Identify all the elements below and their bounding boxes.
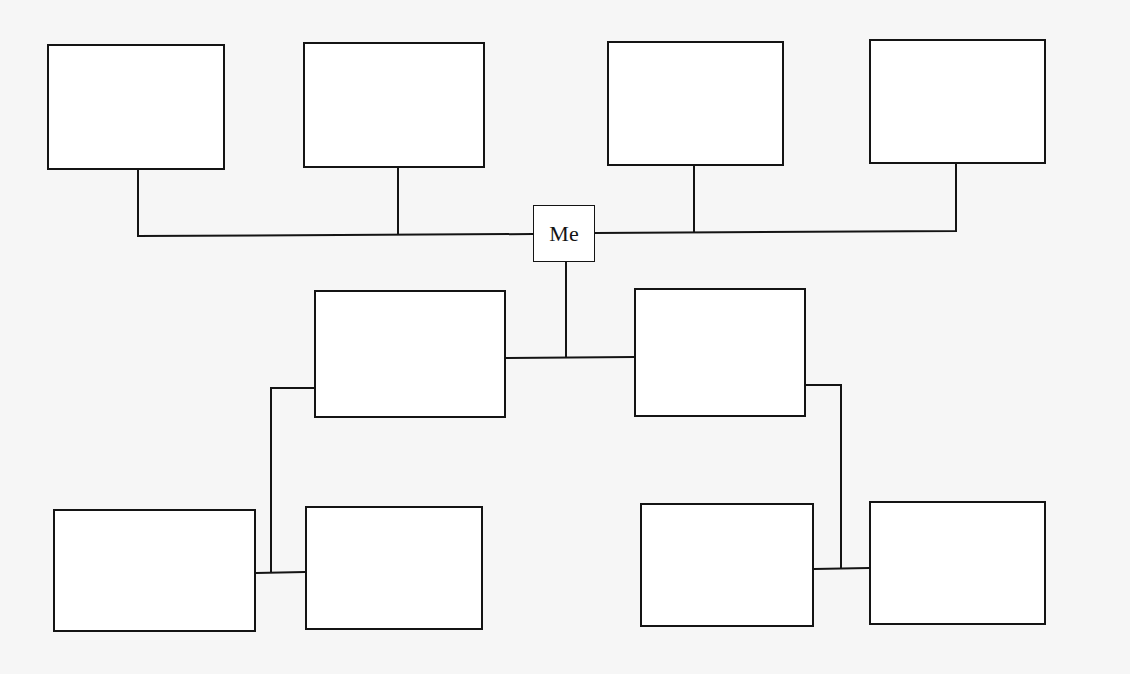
connector-line	[138, 170, 533, 236]
me-box: Me	[533, 205, 595, 262]
child-box-1	[314, 290, 506, 418]
connector-line	[256, 572, 305, 573]
grandparent-box-3	[607, 41, 784, 166]
family-tree-diagram: Me	[0, 0, 1130, 674]
grandchild-box-4	[869, 501, 1046, 625]
grandparent-box-2	[303, 42, 485, 168]
connector-line	[506, 357, 634, 358]
grandchild-box-1	[53, 509, 256, 632]
connector-line	[814, 568, 869, 569]
connector-line	[595, 164, 956, 233]
me-label: Me	[549, 223, 578, 245]
grandparent-box-1	[47, 44, 225, 170]
grandparent-box-4	[869, 39, 1046, 164]
child-box-2	[634, 288, 806, 417]
grandchild-box-3	[640, 503, 814, 627]
grandchild-box-2	[305, 506, 483, 630]
